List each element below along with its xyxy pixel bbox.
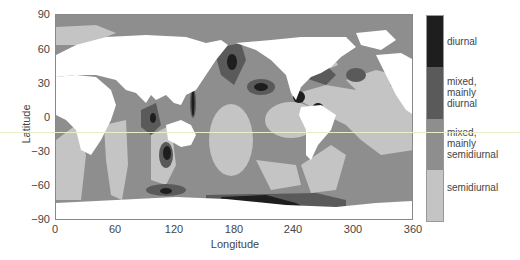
colorbar-label-diurnal: diurnal xyxy=(447,36,477,47)
y-axis-label: Latitude xyxy=(20,94,32,154)
colorbar-label-semidiurnal: semidiurnal xyxy=(447,182,498,193)
x-tick-0: 0 xyxy=(40,223,70,235)
x-tick-300: 300 xyxy=(338,223,368,235)
tidal-map xyxy=(56,15,413,220)
y-tick-60: 60 xyxy=(22,43,50,55)
colorbar-mixed-diurnal xyxy=(427,67,443,119)
colorbar-semidiurnal xyxy=(427,170,443,221)
colorbar-label-mixed-diurnal: mixed, mainly diurnal xyxy=(447,76,477,109)
map-plot-area xyxy=(55,14,413,220)
guide-line xyxy=(0,132,520,133)
y-tick-30: 30 xyxy=(22,77,50,89)
x-tick-60: 60 xyxy=(100,223,130,235)
x-tick-360: 360 xyxy=(398,223,428,235)
y-tick-minus60: −60 xyxy=(22,179,50,191)
colorbar-mixed-semidiurnal xyxy=(427,119,443,170)
colorbar xyxy=(426,15,444,222)
x-tick-240: 240 xyxy=(278,223,308,235)
colorbar-diurnal xyxy=(427,16,443,67)
x-axis-label: Longitude xyxy=(205,238,265,250)
x-tick-180: 180 xyxy=(219,223,249,235)
x-tick-120: 120 xyxy=(159,223,189,235)
y-tick-90: 90 xyxy=(22,8,50,20)
